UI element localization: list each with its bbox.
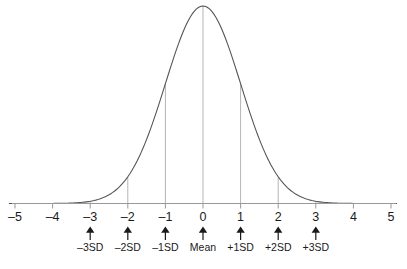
sd-marker-label: Mean [190, 242, 216, 253]
sd-arrow-head-icon [274, 227, 282, 233]
normal-distribution-figure: –5–4–3–2–1012345 –3SD–2SD–1SDMean+1SD+2S… [0, 0, 407, 269]
axis-tick-label: 1 [237, 211, 244, 224]
axis-tick-label: 0 [200, 211, 207, 224]
axis-tick-label: 4 [350, 211, 357, 224]
sd-marker-label: –3SD [77, 242, 103, 253]
axis-tick-label: –4 [46, 211, 60, 224]
sd-arrow-head-icon [86, 227, 94, 233]
sd-marker-label: +1SD [227, 242, 254, 253]
sd-marker-label: –1SD [152, 242, 178, 253]
axis-tick-label: 2 [275, 211, 282, 224]
sd-arrow-head-icon [312, 227, 320, 233]
sd-arrow-head-icon [199, 227, 207, 233]
sd-marker-label: +3SD [303, 242, 330, 253]
axis-tick-label: –3 [83, 211, 97, 224]
axis-tick-label: –5 [8, 211, 22, 224]
axis-tick-label: 5 [388, 211, 395, 224]
sd-marker-label: +2SD [265, 242, 292, 253]
axis-tick-label: 3 [312, 211, 319, 224]
sd-arrow-head-icon [124, 227, 132, 233]
axis-tick-label: –1 [158, 211, 172, 224]
sd-arrow-head-icon [236, 227, 244, 233]
sd-marker-label: –2SD [115, 242, 141, 253]
axis-tick-group [15, 204, 391, 209]
axis-tick-label: –2 [121, 211, 135, 224]
sd-arrow-head-icon [161, 227, 169, 233]
sd-arrow-group [86, 227, 320, 241]
plot-canvas [0, 0, 407, 269]
sd-gridline-group [90, 6, 316, 204]
